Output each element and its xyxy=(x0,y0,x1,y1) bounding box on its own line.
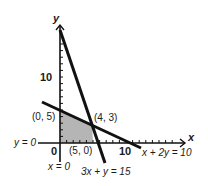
y-axis-equation-label: x = 0 xyxy=(47,161,70,172)
y-axis-label: y xyxy=(52,12,60,24)
line-3x-plus-y-label: 3x + y = 15 xyxy=(81,166,131,177)
origin-label: 0 xyxy=(51,145,57,157)
x-axis-label: x xyxy=(187,131,195,143)
lp-graph: y x 10 10 0 (0, 5) (4, 3) (5, 0) y = 0 x… xyxy=(0,0,208,186)
y-tick-10-label: 10 xyxy=(40,71,52,83)
x-axis-equation-label: y = 0 xyxy=(13,137,36,148)
point-0-5-label: (0, 5) xyxy=(32,111,55,122)
x-tick-10-label: 10 xyxy=(119,145,131,157)
point-5-0-label: (5, 0) xyxy=(69,145,92,156)
point-4-3-label: (4, 3) xyxy=(94,112,117,123)
line-x-plus-2y-label: x + 2y = 10 xyxy=(141,147,192,158)
